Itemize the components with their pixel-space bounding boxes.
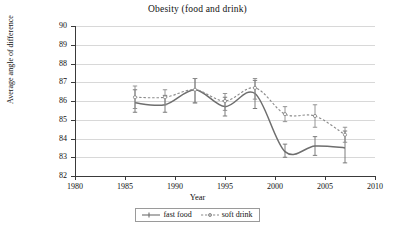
data-point bbox=[223, 99, 226, 102]
x-tick-label: 1995 bbox=[205, 182, 245, 191]
y-tick-label: 87 bbox=[37, 77, 67, 86]
y-tick-label: 89 bbox=[37, 40, 67, 49]
soft-drink-line-icon bbox=[201, 211, 219, 219]
chart-container: Obesity (food and drink) Average angle o… bbox=[0, 0, 395, 236]
y-tick-label: 83 bbox=[37, 152, 67, 161]
x-tick-label: 2005 bbox=[305, 182, 345, 191]
data-point bbox=[193, 88, 196, 91]
y-tick-label: 82 bbox=[37, 171, 67, 180]
x-tick-label: 2000 bbox=[255, 182, 295, 191]
series-line bbox=[135, 90, 345, 155]
data-point bbox=[313, 114, 316, 117]
data-point bbox=[283, 113, 286, 116]
data-point bbox=[253, 86, 256, 89]
legend-label-soft-drink: soft drink bbox=[222, 210, 253, 219]
data-point bbox=[133, 96, 136, 99]
x-tick-label: 2010 bbox=[355, 182, 395, 191]
x-tick-label: 1985 bbox=[105, 182, 145, 191]
x-axis-label: Year bbox=[0, 192, 395, 202]
data-point bbox=[343, 133, 346, 136]
fast-food-line-icon bbox=[142, 211, 160, 219]
legend-label-fast-food: fast food bbox=[163, 210, 191, 219]
y-tick-label: 90 bbox=[37, 21, 67, 30]
legend-item-fast-food[interactable]: fast food bbox=[142, 210, 191, 219]
x-tick-label: 1980 bbox=[55, 182, 95, 191]
legend: fast food soft drink bbox=[0, 208, 395, 222]
y-tick-label: 86 bbox=[37, 96, 67, 105]
data-point bbox=[163, 96, 166, 99]
y-tick-label: 88 bbox=[37, 59, 67, 68]
series-lines bbox=[75, 26, 375, 176]
chart-title: Obesity (food and drink) bbox=[0, 4, 395, 14]
x-tick-label: 1990 bbox=[155, 182, 195, 191]
y-tick-label: 85 bbox=[37, 115, 67, 124]
plot-area bbox=[75, 26, 375, 176]
legend-box: fast food soft drink bbox=[135, 208, 259, 222]
legend-item-soft-drink[interactable]: soft drink bbox=[201, 210, 253, 219]
y-tick-label: 84 bbox=[37, 134, 67, 143]
y-axis-label: Average angle of difference bbox=[6, 0, 15, 122]
x-axis-line bbox=[75, 176, 376, 177]
